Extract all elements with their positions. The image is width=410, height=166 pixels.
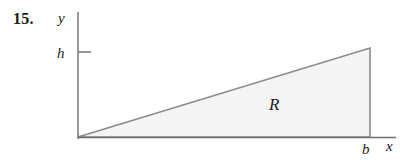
region-r-shape <box>78 48 370 137</box>
problem-number: 15. <box>13 10 34 28</box>
y-axis-label: y <box>58 10 65 27</box>
x-axis-label: x <box>386 138 393 155</box>
region-label-r: R <box>269 95 279 115</box>
b-tick-label: b <box>362 141 370 158</box>
h-tick-label: h <box>57 45 65 62</box>
figure-container: 15. y h R b x <box>0 0 410 166</box>
